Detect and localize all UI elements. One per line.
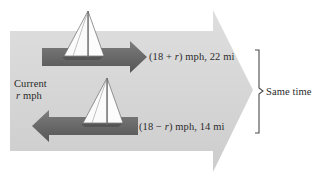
upstream-label-close: ) mph, 14 mi: [169, 121, 224, 132]
upstream-label-open: (18 −: [139, 121, 165, 132]
sailboat-current-diagram: (18 + r) mph, 22 mi (18 − r) mph, 14 mi …: [0, 0, 314, 181]
downstream-label-open: (18 +: [149, 51, 175, 62]
current-label-units: mph: [20, 90, 42, 101]
current-label-line2: r mph: [16, 90, 47, 102]
downstream-label: (18 + r) mph, 22 mi: [149, 51, 234, 63]
same-time-label: Same time: [266, 86, 312, 98]
downstream-label-close: ) mph, 22 mi: [179, 51, 234, 62]
current-label-line1: Current: [14, 78, 47, 89]
current-label: Current r mph: [14, 78, 47, 102]
brace-path: [255, 50, 263, 133]
upstream-label: (18 − r) mph, 14 mi: [139, 121, 224, 133]
